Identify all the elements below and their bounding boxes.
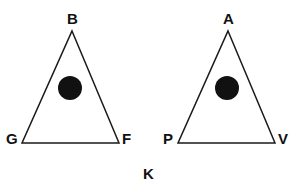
- left-circle-marker: [58, 76, 82, 100]
- vertex-label-f: F: [122, 131, 131, 146]
- figure-svg: [0, 0, 295, 188]
- vertex-label-p: P: [163, 131, 173, 146]
- geometry-figure-canvas: B G F A P V K: [0, 0, 295, 188]
- figure-caption-k: K: [143, 166, 154, 181]
- vertex-label-g: G: [6, 131, 18, 146]
- vertex-label-b: B: [67, 11, 78, 26]
- right-circle-marker: [215, 76, 239, 100]
- vertex-label-v: V: [278, 131, 288, 146]
- vertex-label-a: A: [223, 11, 234, 26]
